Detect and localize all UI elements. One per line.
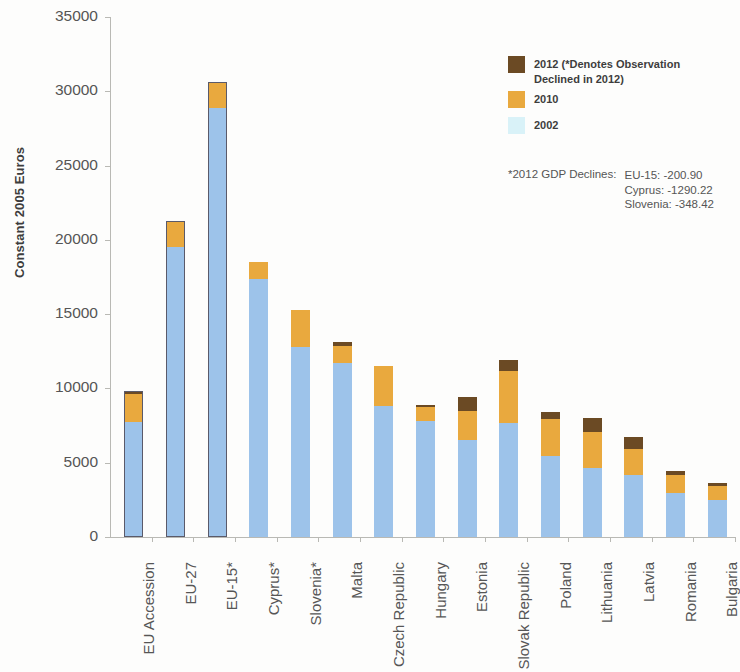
bar-eu-accession: [124, 391, 143, 537]
x-axis-label: EU Accession: [140, 562, 157, 655]
bar-segment-2010: [458, 411, 477, 440]
bar-eu-27: [166, 221, 185, 537]
bar-segment-2002: [124, 422, 143, 537]
gdp-declines-note: *2012 GDP Declines: EU-15: -200.90 Cypru…: [508, 168, 714, 212]
bar-hungary: [416, 405, 435, 537]
bar-segment-2012: [499, 360, 518, 370]
bar-segment-2010: [249, 262, 268, 278]
bar-segment-2002: [541, 456, 560, 537]
bar-slovak-republic: [499, 360, 518, 537]
x-axis-label: Malta: [348, 562, 365, 599]
bar-segment-2010: [416, 407, 435, 421]
legend-swatch-2002-icon: [508, 117, 525, 134]
y-tick: [105, 91, 110, 92]
gdp-declines-title: *2012 GDP Declines:: [508, 168, 616, 180]
bar-segment-2010: [666, 475, 685, 493]
y-axis-line: [110, 17, 111, 538]
legend-item-2002: 2002: [508, 117, 736, 134]
bar-segment-2010: [624, 449, 643, 476]
bar-segment-2002: [416, 421, 435, 537]
bar-segment-2002: [666, 493, 685, 537]
bar-segment-2002: [333, 363, 352, 537]
x-axis-label: Hungary: [432, 562, 449, 619]
bar-eu-15: [208, 82, 227, 537]
x-tick: [693, 537, 694, 542]
bar-segment-2002: [249, 279, 268, 538]
bar-segment-2002: [291, 347, 310, 537]
bar-segment-2002: [624, 475, 643, 537]
bar-segment-2012: [124, 391, 143, 394]
chart-container: Constant 2005 Euros 05000100001500020000…: [0, 0, 740, 672]
x-axis-label: Estonia: [473, 562, 490, 612]
bar-segment-2010: [124, 394, 143, 422]
x-axis-line: [110, 537, 735, 538]
y-tick-label: 15000: [28, 304, 98, 322]
legend-label-2012-line2: Declined in 2012): [534, 73, 624, 85]
x-tick: [568, 537, 569, 542]
bar-segment-2012: [541, 412, 560, 419]
bar-estonia: [458, 397, 477, 537]
x-axis-label: Latvia: [640, 562, 657, 602]
gdp-declines-list: EU-15: -200.90 Cyprus: -1290.22 Slovenia…: [624, 168, 714, 212]
bar-segment-2012: [624, 437, 643, 448]
legend-item-2010: 2010: [508, 91, 736, 108]
x-tick: [360, 537, 361, 542]
bar-segment-2012: [708, 483, 727, 486]
y-tick-label: 10000: [28, 378, 98, 396]
bar-segment-2010: [166, 221, 185, 248]
y-tick-label: 20000: [28, 230, 98, 248]
legend-label-2010: 2010: [534, 91, 558, 107]
bar-segment-2012: [458, 397, 477, 412]
bar-segment-2002: [166, 247, 185, 537]
legend-swatch-2010-icon: [508, 91, 525, 108]
bar-segment-2010: [541, 419, 560, 456]
bar-segment-2012: [333, 342, 352, 346]
legend-label-2002: 2002: [534, 117, 558, 133]
x-axis-label: Lithuania: [598, 562, 615, 623]
x-axis-label: Bulgaria: [723, 562, 740, 617]
x-axis-label: Slovenia*: [307, 562, 324, 625]
legend-label-2012: 2012 (*Denotes Observation Declined in 2…: [534, 56, 680, 86]
y-tick-label: 30000: [28, 81, 98, 99]
bar-segment-2012: [666, 471, 685, 475]
y-tick: [105, 314, 110, 315]
y-tick: [105, 17, 110, 18]
gdp-decline-entry: EU-15: -200.90: [624, 168, 714, 183]
bar-slovenia: [291, 310, 310, 537]
bar-segment-2002: [583, 468, 602, 537]
bar-cyprus: [249, 262, 268, 537]
bar-segment-2002: [499, 423, 518, 537]
y-tick-label: 5000: [28, 453, 98, 471]
bar-segment-2010: [499, 371, 518, 423]
bar-segment-2010: [291, 310, 310, 346]
bar-segment-2010: [208, 82, 227, 108]
bar-malta: [333, 342, 352, 537]
bar-segment-2002: [458, 440, 477, 537]
y-tick: [105, 166, 110, 167]
x-tick: [485, 537, 486, 542]
bar-segment-2010: [374, 366, 393, 406]
bar-poland: [541, 412, 560, 537]
bar-segment-2010: [583, 432, 602, 468]
x-axis-label: EU-27: [182, 562, 199, 605]
bar-segment-2010: [333, 346, 352, 363]
legend: 2012 (*Denotes Observation Declined in 2…: [508, 56, 736, 137]
x-tick: [652, 537, 653, 542]
y-tick: [105, 463, 110, 464]
bar-latvia: [624, 437, 643, 537]
x-axis-label: Poland: [557, 562, 574, 609]
x-tick: [735, 537, 736, 542]
y-tick: [105, 537, 110, 538]
x-tick: [152, 537, 153, 542]
x-tick: [318, 537, 319, 542]
x-axis-label: Slovak Republic: [515, 562, 532, 670]
y-tick-label: 35000: [28, 7, 98, 25]
x-axis-label: EU-15*: [223, 562, 240, 610]
x-axis-label: Romania: [682, 562, 699, 622]
x-axis-label: Czech Republic: [390, 562, 407, 667]
bar-segment-2010: [708, 486, 727, 500]
x-tick: [402, 537, 403, 542]
y-tick-label: 25000: [28, 156, 98, 174]
bar-bulgaria: [708, 483, 727, 537]
bar-czech-republic: [374, 366, 393, 537]
